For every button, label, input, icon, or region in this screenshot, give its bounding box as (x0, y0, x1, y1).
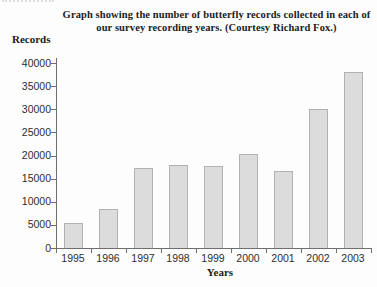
bar-1996 (99, 209, 118, 248)
bar-1997 (134, 168, 153, 248)
x-axis-tick-label: 1995 (56, 252, 91, 264)
y-axis-tick (51, 63, 56, 64)
y-axis-tick (51, 202, 56, 203)
y-axis-tick-label: 25000 (9, 126, 51, 139)
x-axis-tick-label: 2002 (301, 252, 336, 264)
y-axis-tick-label: 35000 (9, 80, 51, 93)
bar-1999 (204, 166, 223, 248)
y-axis-tick (51, 225, 56, 226)
y-axis-tick (51, 156, 56, 157)
y-axis-tick-label: 40000 (9, 57, 51, 70)
bar-1998 (169, 165, 188, 248)
y-axis-tick-label: 30000 (9, 103, 51, 116)
x-axis-tick-label: 2000 (231, 252, 266, 264)
bar-2000 (239, 154, 258, 248)
x-axis-tick-label: 2001 (266, 252, 301, 264)
x-axis-tick-label: 1999 (196, 252, 231, 264)
x-axis-tick-label: 1998 (161, 252, 196, 264)
butterfly-records-chart: Graph showing the number of butterfly re… (0, 0, 377, 287)
bar-1995 (64, 223, 83, 248)
plot-area: 0500010000150002000025000300003500040000… (0, 0, 377, 287)
y-axis-tick (51, 86, 56, 87)
y-axis-tick (51, 132, 56, 133)
x-axis-line (51, 248, 372, 249)
y-axis-tick-label: 15000 (9, 172, 51, 185)
x-axis-tick-label: 1996 (91, 252, 126, 264)
x-axis-title: Years (0, 266, 377, 278)
y-axis-tick (51, 179, 56, 180)
y-axis-tick (51, 109, 56, 110)
bar-2001 (274, 171, 293, 248)
y-axis-tick-label: 0 (9, 242, 51, 255)
x-axis-tick (371, 249, 372, 253)
y-axis-tick-label: 10000 (9, 195, 51, 208)
x-axis-tick-label: 2003 (336, 252, 371, 264)
y-axis-tick-label: 20000 (9, 149, 51, 162)
y-axis-tick-label: 5000 (9, 218, 51, 231)
y-axis-line (56, 58, 57, 248)
bar-2002 (309, 109, 328, 248)
x-axis-tick-label: 1997 (126, 252, 161, 264)
bar-2003 (344, 72, 363, 248)
